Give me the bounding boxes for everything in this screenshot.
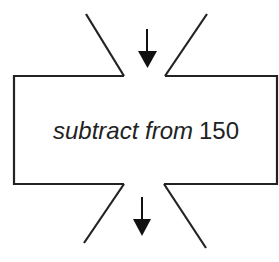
output-funnel-right (164, 184, 206, 248)
output-funnel-left (84, 184, 124, 243)
machine-label: subtract from 150 (14, 77, 278, 184)
input-funnel-left (86, 14, 124, 76)
operation-text: subtract from (53, 117, 193, 145)
input-funnel-right (165, 14, 207, 76)
output-down-arrow-icon (133, 197, 151, 236)
operand-value: 150 (199, 117, 239, 145)
input-down-arrow-icon (138, 29, 157, 68)
